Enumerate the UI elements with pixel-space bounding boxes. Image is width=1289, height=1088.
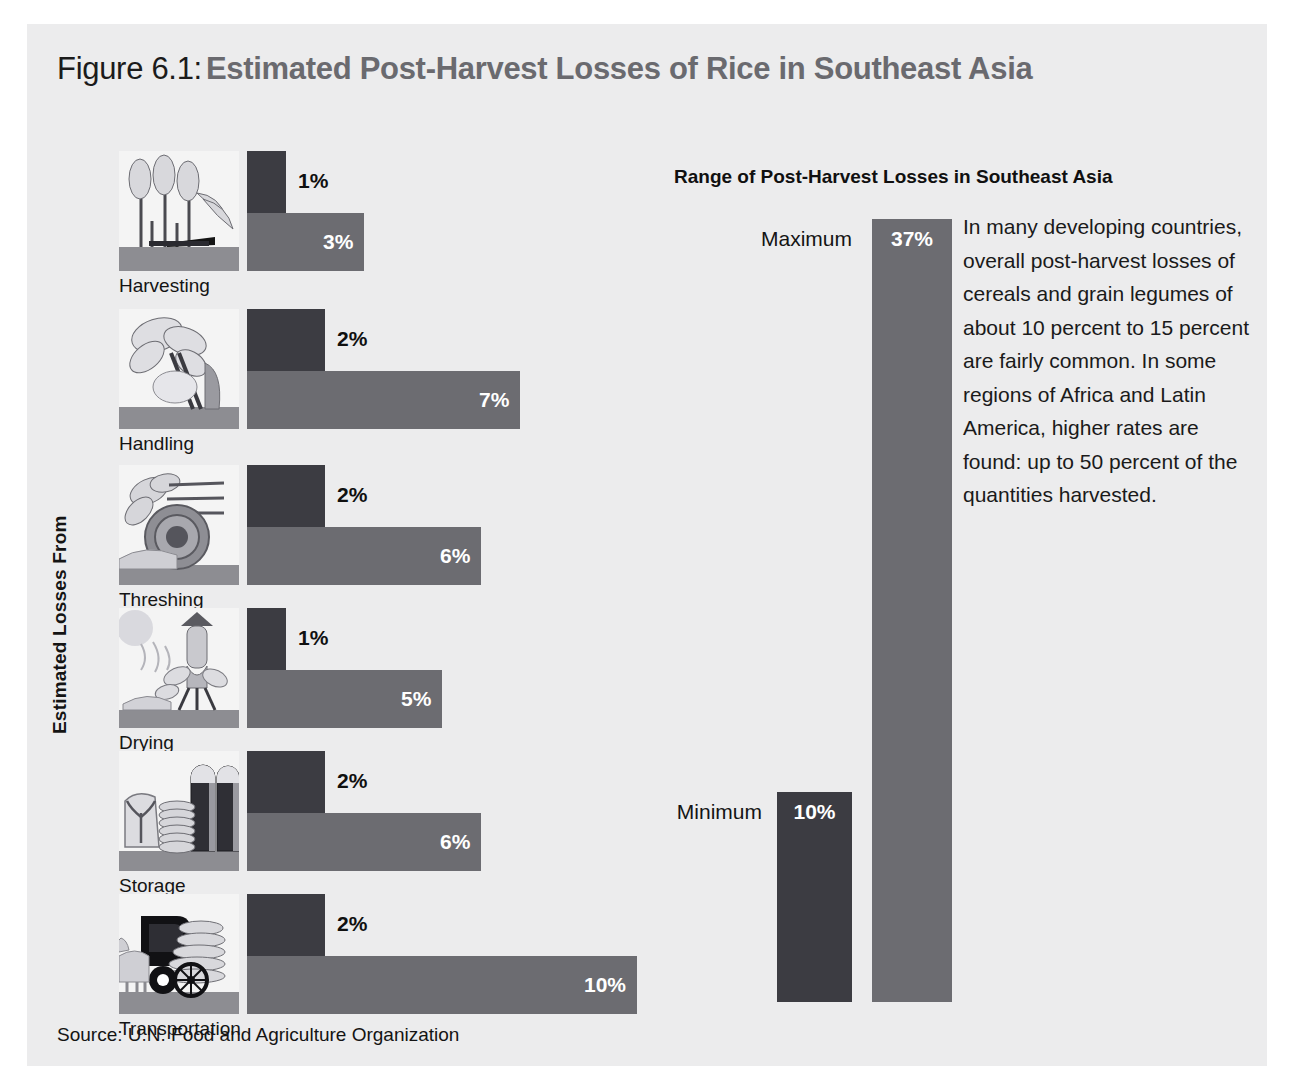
bar-min-handling bbox=[247, 309, 325, 371]
category-label-handling: Handling bbox=[119, 433, 194, 455]
bar-min-drying bbox=[247, 608, 286, 670]
value-max-threshing: 6% bbox=[440, 544, 470, 568]
range-body-text: In many developing countries, overall po… bbox=[963, 210, 1259, 512]
bar-min-storage bbox=[247, 751, 325, 813]
ox-cart-icon bbox=[119, 894, 239, 1014]
y-axis-caption: Estimated Losses From bbox=[49, 174, 71, 454]
figure-page: Figure 6.1:Estimated Post-Harvest Losses… bbox=[0, 0, 1289, 1088]
vbar-label-minimum: Minimum bbox=[607, 800, 762, 824]
range-panel: Range of Post-Harvest Losses in Southeas… bbox=[647, 127, 1247, 1017]
figure-panel: Figure 6.1:Estimated Post-Harvest Losses… bbox=[27, 24, 1267, 1066]
value-max-drying: 5% bbox=[401, 687, 431, 711]
grain-silo-icon bbox=[119, 751, 239, 871]
value-min-handling: 2% bbox=[337, 327, 367, 351]
page-title: Figure 6.1:Estimated Post-Harvest Losses… bbox=[57, 51, 1032, 87]
vbar-maximum bbox=[872, 219, 952, 1002]
range-chart: Maximum 37% Minimum 10% bbox=[647, 127, 967, 1017]
bar-min-harvesting bbox=[247, 151, 286, 213]
vbar-value-minimum: 10% bbox=[777, 800, 852, 824]
value-min-drying: 1% bbox=[298, 626, 328, 650]
value-max-harvesting: 3% bbox=[323, 230, 353, 254]
category-label-harvesting: Harvesting bbox=[119, 275, 210, 297]
value-min-harvesting: 1% bbox=[298, 169, 328, 193]
bar-max-transportation bbox=[247, 956, 637, 1014]
vbar-value-maximum: 37% bbox=[872, 227, 952, 251]
value-min-storage: 2% bbox=[337, 769, 367, 793]
y-axis-caption-text: Estimated Losses From bbox=[49, 454, 71, 734]
value-min-threshing: 2% bbox=[337, 483, 367, 507]
source-note: Source: U.N. Food and Agriculture Organi… bbox=[57, 1024, 459, 1046]
thresher-icon bbox=[119, 465, 239, 585]
rice-sheaf-icon bbox=[119, 309, 239, 429]
rice-plants-icon bbox=[119, 151, 239, 271]
value-max-storage: 6% bbox=[440, 830, 470, 854]
losses-by-stage-chart: 1% 3% Harvesting bbox=[119, 127, 679, 1017]
figure-title-text: Estimated Post-Harvest Losses of Rice in… bbox=[206, 51, 1033, 86]
sun-dryer-icon bbox=[119, 608, 239, 728]
vbar-label-maximum: Maximum bbox=[702, 227, 852, 251]
bar-min-transportation bbox=[247, 894, 325, 956]
value-max-handling: 7% bbox=[479, 388, 509, 412]
bar-min-threshing bbox=[247, 465, 325, 527]
value-max-transportation: 10% bbox=[584, 973, 626, 997]
figure-number: Figure 6.1: bbox=[57, 51, 202, 86]
value-min-transportation: 2% bbox=[337, 912, 367, 936]
